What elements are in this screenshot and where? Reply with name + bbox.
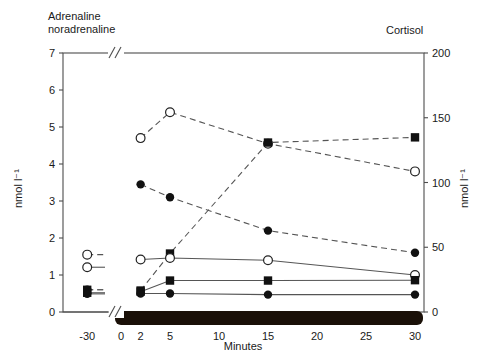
svg-text:50: 50 — [432, 241, 444, 253]
svg-text:5: 5 — [167, 330, 173, 342]
svg-text:25: 25 — [360, 330, 372, 342]
svg-text:3: 3 — [49, 195, 55, 207]
svg-text:100: 100 — [432, 177, 450, 189]
svg-text:30: 30 — [409, 330, 421, 342]
svg-text:20: 20 — [311, 330, 323, 342]
svg-text:6: 6 — [49, 84, 55, 96]
svg-text:1: 1 — [49, 269, 55, 281]
svg-text:7: 7 — [49, 47, 55, 59]
axis-tick-labels: 01234567050100150200-300251015202530 — [49, 47, 450, 342]
svg-text:150: 150 — [432, 112, 450, 124]
svg-text:2: 2 — [49, 232, 55, 244]
svg-text:0: 0 — [49, 306, 55, 318]
plot-canvas: 01234567050100150200-300251015202530 — [0, 0, 486, 364]
infusion-bar — [115, 311, 423, 325]
svg-text:10: 10 — [213, 330, 225, 342]
plot-frame — [63, 53, 424, 312]
svg-text:-30: -30 — [79, 330, 95, 342]
svg-text:0: 0 — [118, 330, 124, 342]
svg-text:0: 0 — [432, 306, 438, 318]
axis-ticks — [59, 53, 428, 312]
chart-figure: Adrenaline noradrenaline Cortisol Minute… — [0, 0, 486, 364]
svg-text:5: 5 — [49, 121, 55, 133]
svg-text:4: 4 — [49, 158, 55, 170]
svg-text:200: 200 — [432, 47, 450, 59]
svg-text:2: 2 — [138, 330, 144, 342]
svg-text:15: 15 — [262, 330, 274, 342]
axis-break-marks — [63, 47, 124, 318]
